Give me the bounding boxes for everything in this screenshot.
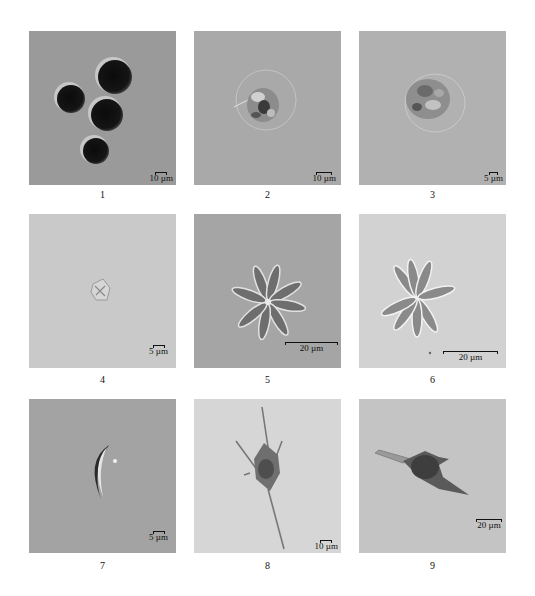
panel-label: 1 bbox=[29, 189, 176, 200]
scale-bar: 5 µm bbox=[149, 531, 168, 542]
granular-ovoid-cell-image bbox=[359, 31, 506, 185]
scale-bar: 20 µm bbox=[285, 342, 338, 353]
granular-round-cell-image bbox=[194, 31, 341, 185]
micrograph-panel-1: 10 µm bbox=[29, 31, 176, 185]
scale-bar-label: 5 µm bbox=[484, 173, 503, 183]
scale-bar-label: 20 µm bbox=[459, 352, 482, 362]
scale-bar-label: 20 µm bbox=[300, 343, 323, 353]
star-colony-image bbox=[359, 214, 506, 368]
panel-label: 4 bbox=[29, 374, 176, 385]
scale-bar-label: 10 µm bbox=[150, 173, 173, 183]
panel-label: 3 bbox=[359, 189, 506, 200]
dark-spherical-cells-image bbox=[29, 31, 176, 185]
scale-bar: 10 µm bbox=[150, 172, 173, 183]
scale-bar-label: 10 µm bbox=[315, 541, 338, 551]
scale-bar-label: 20 µm bbox=[477, 520, 500, 530]
panel-label: 7 bbox=[29, 560, 176, 571]
scale-bar: 20 µm bbox=[476, 519, 502, 530]
panel-label: 6 bbox=[359, 374, 506, 385]
crescent-cell-image bbox=[29, 399, 176, 553]
micrograph-panel-2: 10 µm bbox=[194, 31, 341, 185]
micrograph-panel-4: 5 µm bbox=[29, 214, 176, 368]
micrograph-panel-3: 5 µm bbox=[359, 31, 506, 185]
micrograph-panel-9: 20 µm bbox=[359, 399, 506, 553]
scale-bar: 20 µm bbox=[443, 351, 498, 362]
panel-label: 9 bbox=[359, 560, 506, 571]
micrograph-panel-8: 10 µm bbox=[194, 399, 341, 553]
micrograph-panel-7: 5 µm bbox=[29, 399, 176, 553]
scale-bar: 10 µm bbox=[315, 540, 338, 551]
panel-label: 5 bbox=[194, 374, 341, 385]
micrograph-panel-6: 20 µm bbox=[359, 214, 506, 368]
panel-label: 8 bbox=[194, 560, 341, 571]
panel-label: 2 bbox=[194, 189, 341, 200]
scale-bar: 10 µm bbox=[313, 172, 336, 183]
scale-bar: 5 µm bbox=[484, 172, 503, 183]
scale-bar: 5 µm bbox=[149, 345, 168, 356]
micrograph-panel-5: 20 µm bbox=[194, 214, 341, 368]
spiny-cell-image bbox=[194, 399, 341, 553]
